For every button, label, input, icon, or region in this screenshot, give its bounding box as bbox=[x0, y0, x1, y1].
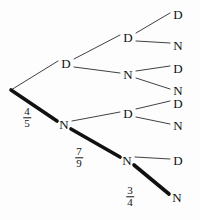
probability-label-7-9: 7 9 bbox=[75, 146, 83, 169]
node-L2-DD: D bbox=[123, 31, 132, 44]
node-L2-DN: N bbox=[123, 68, 132, 81]
branch-L2DD-to-L3DDN bbox=[136, 41, 170, 43]
node-L3-DND: D bbox=[173, 62, 182, 75]
branch-L1N-to-L2ND bbox=[72, 112, 120, 121]
branch-L2ND-to-L3NDN bbox=[136, 117, 170, 124]
node-L2-NN: N bbox=[122, 154, 131, 167]
branch-L2DN-to-L3DNN bbox=[136, 78, 170, 89]
branch-L2DD-to-L3DDD bbox=[136, 13, 170, 33]
node-L3-NDN: N bbox=[173, 119, 182, 132]
branch-L1D-to-L2DD bbox=[74, 35, 120, 59]
thick-branches bbox=[11, 90, 169, 194]
fraction-denominator: 9 bbox=[75, 159, 83, 170]
node-L1-N: N bbox=[59, 118, 68, 131]
branch-L2ND-to-L3NDD bbox=[136, 101, 170, 109]
probability-label-3-4: 3 4 bbox=[126, 185, 134, 208]
branch-L2NN-to-L3NNN-highlighted bbox=[134, 165, 169, 194]
node-L2-ND: D bbox=[123, 107, 132, 120]
probability-tree-diagram: D N D N D N D N D N D N D N 4 5 7 9 3 4 bbox=[0, 0, 200, 220]
fraction-denominator: 5 bbox=[23, 119, 31, 130]
branch-root-to-L1D bbox=[11, 61, 58, 90]
branch-L2NN-to-L3NND bbox=[135, 157, 170, 159]
node-L1-D: D bbox=[61, 57, 70, 70]
probability-label-4-5: 4 5 bbox=[23, 106, 31, 129]
node-L3-NDD: D bbox=[173, 97, 182, 110]
fraction-denominator: 4 bbox=[126, 198, 134, 209]
branch-L1D-to-L2DN bbox=[74, 67, 120, 73]
node-L3-DDD: D bbox=[173, 8, 182, 21]
node-L3-NND: D bbox=[173, 154, 182, 167]
node-L3-NNN: N bbox=[172, 191, 181, 204]
branch-root-to-L1N-highlighted bbox=[11, 90, 57, 121]
branch-L2DN-to-L3DND bbox=[136, 66, 170, 71]
thin-branches bbox=[11, 13, 170, 159]
node-L3-DDN: N bbox=[173, 39, 182, 52]
